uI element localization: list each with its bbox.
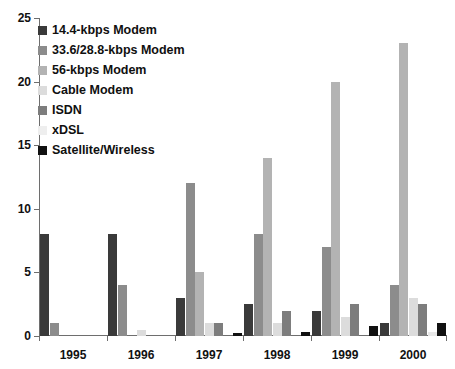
legend-item-label: xDSL [52,124,84,137]
x-axis-tick [311,336,312,341]
x-axis-tick [175,336,176,341]
bar [108,234,117,336]
legend-swatch-icon [38,106,47,115]
x-axis-tick [243,336,244,341]
bar [399,43,408,336]
bar-group [379,18,447,336]
bar [390,285,399,336]
x-axis-label: 1996 [128,348,155,362]
bar [322,247,331,336]
bar [301,332,310,336]
bar [437,323,446,336]
x-axis-tick [107,336,108,341]
bar [350,304,359,336]
bar [409,298,418,336]
legend-swatch-icon [38,46,47,55]
legend-item: Cable Modem [38,82,185,99]
legend-item-label: Satellite/Wireless [52,144,155,157]
x-axis-label: 1998 [264,348,291,362]
bar [244,304,253,336]
x-axis-tick [446,336,447,341]
x-axis-label: 1997 [196,348,223,362]
y-axis-label: 15 [18,138,31,152]
bar [195,272,204,336]
legend-item: xDSL [38,122,185,139]
legend-swatch-icon [38,146,47,155]
legend-item: Satellite/Wireless [38,142,185,159]
x-axis-label: 2000 [400,348,427,362]
bar [176,298,185,336]
legend-item: 14.4-kbps Modem [38,22,185,39]
y-axis-label: 5 [24,265,31,279]
y-axis-label: 10 [18,202,31,216]
y-axis-label: 25 [18,11,31,25]
bar [40,234,49,336]
bar [137,330,146,336]
bar [282,311,291,336]
y-axis-label: 0 [24,329,31,343]
legend-item: ISDN [38,102,185,119]
bar [214,323,223,336]
legend-item-label: ISDN [52,104,82,117]
x-axis-tick [39,336,40,341]
legend-item: 33.6/28.8-kbps Modem [38,42,185,59]
bar [369,326,378,336]
legend-item: 56-kbps Modem [38,62,185,79]
bar [331,82,340,336]
bar-chart: 0510152025 199519961997199819992000 14.4… [0,0,455,369]
bar [428,332,437,336]
legend-swatch-icon [38,86,47,95]
bar-group [311,18,379,336]
legend-item-label: 56-kbps Modem [52,64,146,77]
bar-group [243,18,311,336]
bar [254,234,263,336]
bar [418,304,427,336]
legend-swatch-icon [38,26,47,35]
x-axis-label: 1995 [60,348,87,362]
legend-swatch-icon [38,126,47,135]
legend-item-label: 33.6/28.8-kbps Modem [52,44,185,57]
bar [186,183,195,336]
x-axis-label: 1999 [332,348,359,362]
bar [273,323,282,336]
bar [380,323,389,336]
legend-swatch-icon [38,66,47,75]
bar-group [175,18,243,336]
legend-item-label: Cable Modem [52,84,133,97]
x-axis-tick [379,336,380,341]
bar [205,323,214,336]
legend-item-label: 14.4-kbps Modem [52,24,157,37]
y-axis-label: 20 [18,75,31,89]
chart-legend: 14.4-kbps Modem33.6/28.8-kbps Modem56-kb… [38,22,185,159]
bar [341,317,350,336]
bar [263,158,272,336]
bar [50,323,59,336]
bar [233,333,242,336]
bar [312,311,321,336]
bar [118,285,127,336]
